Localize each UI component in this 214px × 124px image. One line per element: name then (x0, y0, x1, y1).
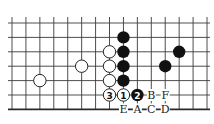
point-label-b: B (147, 89, 156, 102)
black-stone (117, 60, 129, 72)
svg-text:F: F (161, 89, 169, 102)
black-stone (117, 74, 129, 86)
svg-text:1: 1 (120, 91, 126, 101)
svg-text:C: C (147, 103, 155, 116)
svg-text:A: A (132, 103, 142, 116)
white-stone (34, 74, 46, 86)
svg-text:E: E (119, 103, 127, 116)
point-label-f: F (161, 89, 170, 102)
white-stone (75, 60, 87, 72)
point-label-a: A (132, 103, 142, 116)
numbered-black-stone-2: 2 (131, 89, 143, 101)
black-stone (159, 60, 171, 72)
white-stone (103, 60, 115, 72)
svg-text:D: D (161, 103, 170, 116)
black-stone (173, 46, 185, 58)
white-stone (103, 74, 115, 86)
numbered-white-stone-3: 3 (103, 89, 115, 101)
black-stone (117, 31, 129, 43)
numbered-white-stone-1: 1 (117, 89, 129, 101)
svg-text:2: 2 (134, 91, 140, 101)
black-stone (117, 46, 129, 58)
point-label-c: C (147, 103, 156, 116)
point-label-d: D (161, 103, 170, 116)
white-stone (103, 46, 115, 58)
point-label-e: E (119, 103, 128, 116)
svg-text:B: B (147, 89, 155, 102)
svg-text:3: 3 (106, 91, 112, 101)
go-board-diagram: BFEACD 123 (0, 0, 214, 124)
